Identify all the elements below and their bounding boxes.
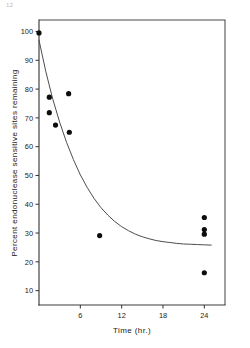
data-point-group [36, 30, 207, 275]
data-point [47, 110, 52, 115]
data-point [47, 95, 52, 100]
plot-frame [39, 20, 225, 305]
scatter-plot: 102030405060708090100 6121824 Time (hr.)… [0, 0, 250, 348]
data-point [97, 233, 102, 238]
y-tick-label: 50 [25, 171, 33, 180]
data-point [53, 122, 58, 127]
y-tick-label: 90 [25, 56, 33, 65]
y-tick-label: 60 [25, 142, 33, 151]
data-point [66, 91, 71, 96]
data-point [67, 130, 72, 135]
x-axis-ticks: 6121824 [78, 305, 208, 320]
x-tick-label: 24 [200, 311, 208, 320]
data-point [202, 227, 207, 232]
x-tick-label: 12 [118, 311, 126, 320]
data-point [202, 270, 207, 275]
x-axis-title: Time (hr.) [113, 326, 151, 335]
y-tick-label: 100 [21, 27, 33, 36]
x-tick-label: 18 [159, 311, 167, 320]
y-tick-label: 40 [25, 200, 33, 209]
figure-container: 12 102030405060708090100 6121824 Time (h… [0, 0, 250, 348]
y-tick-label: 10 [25, 286, 33, 295]
y-tick-label: 80 [25, 85, 33, 94]
y-tick-label: 30 [25, 229, 33, 238]
y-axis-ticks: 102030405060708090100 [21, 27, 39, 295]
y-axis-title: Percent endonuclease sensitive sites rem… [10, 69, 19, 256]
y-tick-label: 70 [25, 114, 33, 123]
data-point [202, 232, 207, 237]
x-tick-label: 6 [78, 311, 82, 320]
y-tick-label: 20 [25, 258, 33, 267]
data-point [36, 30, 41, 35]
fitted-decay-curve [39, 40, 211, 245]
data-point [202, 215, 207, 220]
